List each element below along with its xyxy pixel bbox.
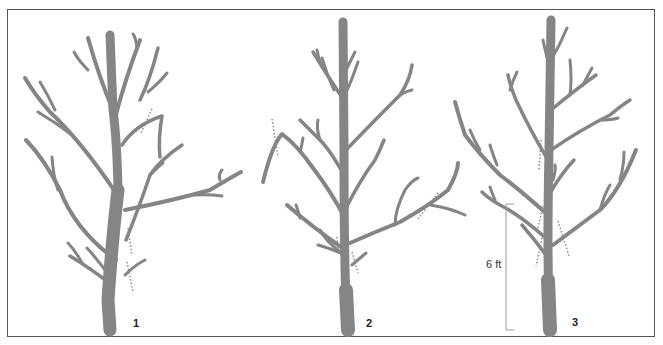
tree-label-1: 1 <box>133 317 139 329</box>
tree-3 <box>455 20 636 330</box>
tree-1 <box>25 34 241 330</box>
scale-label: 6 ft <box>486 258 501 270</box>
pruning-diagram <box>0 0 663 345</box>
scale-bracket <box>506 204 514 330</box>
tree-label-2: 2 <box>366 317 372 329</box>
tree-label-3: 3 <box>572 316 578 328</box>
tree-2 <box>263 22 465 330</box>
